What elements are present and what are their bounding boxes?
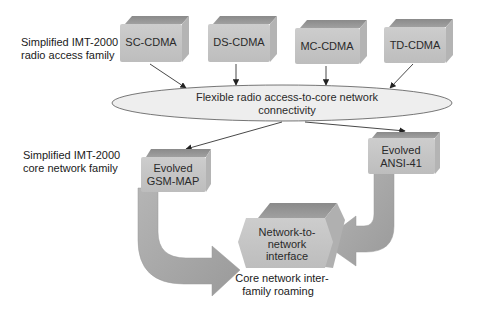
roaming-caption: Core network inter- family roaming: [235, 272, 329, 297]
svg-text:Network-to-: Network-to-: [259, 226, 316, 238]
svg-text:Flexible radio access-to-core: Flexible radio access-to-core network: [196, 91, 379, 103]
svg-text:network: network: [268, 238, 307, 250]
svg-text:Evolved: Evolved: [153, 162, 192, 174]
radio-box-sc-cdma: SC-CDMA: [120, 16, 189, 62]
svg-text:MC-CDMA: MC-CDMA: [300, 40, 354, 52]
radio-to-ellipse-arrows: [150, 64, 413, 88]
svg-text:core network family: core network family: [23, 162, 118, 174]
radio-box-td-cdma: TD-CDMA: [384, 19, 453, 63]
svg-text:GSM-MAP: GSM-MAP: [147, 175, 200, 187]
svg-text:radio access family: radio access family: [21, 49, 115, 61]
svg-text:TD-CDMA: TD-CDMA: [390, 39, 441, 51]
svg-text:Evolved: Evolved: [381, 144, 420, 156]
core-box-ansi-41: Evolved ANSI-41: [368, 132, 440, 174]
svg-text:connectivity: connectivity: [258, 104, 316, 116]
diagram-canvas: Simplified IMT-2000 radio access family …: [0, 0, 481, 311]
svg-text:Core network inter-: Core network inter-: [235, 272, 329, 284]
svg-text:ANSI-41: ANSI-41: [380, 157, 422, 169]
core-box-gsm-map: Evolved GSM-MAP: [141, 149, 211, 192]
radio-access-family-label: Simplified IMT-2000 radio access family: [21, 36, 118, 61]
connectivity-ellipse: Flexible radio access-to-core network co…: [112, 85, 452, 121]
svg-text:SC-CDMA: SC-CDMA: [125, 36, 177, 48]
svg-text:Simplified IMT-2000: Simplified IMT-2000: [23, 149, 120, 161]
core-network-family-label: Simplified IMT-2000 core network family: [23, 149, 120, 174]
svg-text:DS-CDMA: DS-CDMA: [213, 36, 265, 48]
svg-text:Simplified IMT-2000: Simplified IMT-2000: [21, 36, 118, 48]
svg-text:family roaming: family roaming: [242, 285, 314, 297]
gsm-to-nni-roaming-arrow: [138, 188, 240, 296]
svg-text:interface: interface: [266, 250, 308, 262]
radio-box-ds-cdma: DS-CDMA: [208, 16, 277, 62]
radio-box-mc-cdma: MC-CDMA: [295, 20, 367, 64]
nni-box: Network-to- network interface: [238, 203, 345, 268]
